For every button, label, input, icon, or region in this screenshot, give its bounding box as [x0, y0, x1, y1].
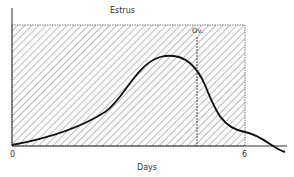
chart-canvas [0, 0, 294, 177]
x-tick-6: 6 [242, 150, 247, 159]
estrus-label: Estrus [110, 6, 135, 15]
x-tick-0: 0 [10, 150, 15, 159]
x-axis-label: Days [137, 163, 157, 172]
ovulation-label: Ov. [192, 27, 203, 35]
